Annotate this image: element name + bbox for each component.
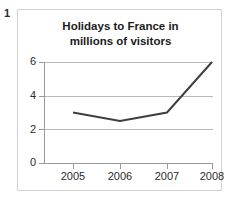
y-tick-label-4: 4	[18, 90, 36, 101]
x-tick-mark-2005	[73, 164, 74, 169]
gridline-y-0	[44, 163, 213, 164]
y-tick-label-2: 2	[18, 124, 36, 135]
gridline-y-4	[44, 96, 213, 97]
x-tick-mark-2006	[120, 164, 121, 169]
y-tick-label-0: 0	[18, 157, 36, 168]
chart-card: Holidays to France in millions of visito…	[17, 9, 222, 191]
y-tick-mark-0	[39, 163, 45, 164]
figure-root: 1 Holidays to France in millions of visi…	[0, 0, 232, 201]
gridline-y-2	[44, 129, 213, 130]
chart-title-line-1: Holidays to France in	[26, 19, 215, 34]
y-tick-label-6: 6	[18, 56, 36, 67]
y-tick-mark-6	[39, 62, 45, 63]
x-tick-mark-2007	[167, 164, 168, 169]
figure-number-label: 1	[4, 7, 10, 19]
y-axis-line	[44, 62, 45, 164]
x-tick-label-2008: 2008	[192, 170, 232, 182]
x-tick-label-2006: 2006	[100, 170, 140, 182]
x-tick-mark-2008	[212, 164, 213, 169]
x-tick-label-2005: 2005	[53, 170, 93, 182]
y-tick-mark-4	[39, 96, 45, 97]
chart-title: Holidays to France in millions of visito…	[26, 19, 215, 49]
gridline-y-6	[44, 62, 213, 63]
plot-area	[44, 62, 213, 163]
chart-title-line-2: millions of visitors	[26, 34, 215, 49]
x-tick-label-2007: 2007	[147, 170, 187, 182]
y-tick-mark-2	[39, 129, 45, 130]
